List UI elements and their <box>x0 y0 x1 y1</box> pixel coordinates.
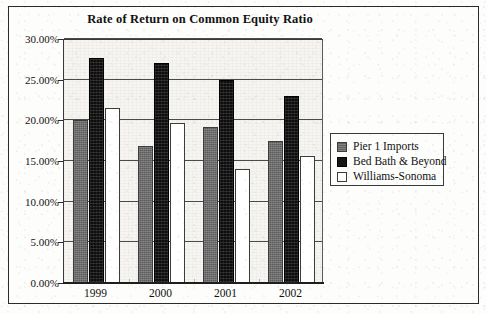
legend-swatch-icon <box>337 172 347 182</box>
y-axis-tick-label: 10.00% <box>25 196 59 208</box>
bar-2000-series-2 <box>170 123 185 283</box>
y-axis-tick-mark <box>58 161 63 162</box>
y-axis-tick-label: 30.00% <box>25 33 59 45</box>
y-axis-tick-mark <box>58 202 63 203</box>
bar-2000-series-0 <box>138 146 153 283</box>
y-axis-tick-mark <box>58 80 63 81</box>
y-axis-tick-mark <box>58 39 63 40</box>
legend-item: Williams-Sonoma <box>337 170 436 184</box>
y-axis-tick-label: 15.00% <box>25 155 59 167</box>
chart-legend: Pier 1 ImportsBed Bath & BeyondWilliams-… <box>330 133 444 186</box>
y-axis-tick-label: 20.00% <box>25 114 59 126</box>
y-axis: 0.00%5.00%10.00%15.00%20.00%25.00%30.00% <box>0 0 59 314</box>
y-axis-tick-mark <box>58 120 63 121</box>
x-axis-line <box>63 282 324 284</box>
legend-swatch-icon <box>337 142 347 152</box>
bar-2002-series-2 <box>300 156 315 283</box>
x-axis-tick-label: 2002 <box>279 287 302 299</box>
y-axis-tick-mark <box>58 242 63 243</box>
y-axis-tick-label: 0.00% <box>31 277 59 289</box>
legend-label: Bed Bath & Beyond <box>353 156 447 168</box>
bar-2001-series-2 <box>235 169 250 283</box>
x-axis-tick-label: 2000 <box>149 287 172 299</box>
x-axis-tick-label: 1999 <box>84 287 107 299</box>
legend-label: Pier 1 Imports <box>353 141 419 153</box>
bar-2001-series-0 <box>203 127 218 283</box>
bar-2001-series-1 <box>219 80 234 283</box>
bar-1999-series-1 <box>89 58 104 283</box>
y-axis-tick-mark <box>58 283 63 284</box>
legend-item: Bed Bath & Beyond <box>337 155 447 169</box>
x-axis-tick-label: 2001 <box>214 287 237 299</box>
bar-2002-series-0 <box>268 141 283 283</box>
gridline <box>64 38 322 39</box>
legend-swatch-icon <box>337 157 347 167</box>
bar-2000-series-1 <box>154 63 169 283</box>
legend-label: Williams-Sonoma <box>353 171 436 183</box>
legend-item: Pier 1 Imports <box>337 140 419 154</box>
bar-2002-series-1 <box>284 96 299 283</box>
chart-title: Rate of Return on Common Equity Ratio <box>55 12 345 27</box>
plot-area <box>63 39 323 283</box>
y-axis-tick-label: 5.00% <box>31 236 59 248</box>
bar-1999-series-0 <box>73 120 88 283</box>
chart-figure: Rate of Return on Common Equity Ratio 0.… <box>0 0 487 314</box>
bar-1999-series-2 <box>105 108 120 283</box>
y-axis-tick-label: 25.00% <box>25 74 59 86</box>
